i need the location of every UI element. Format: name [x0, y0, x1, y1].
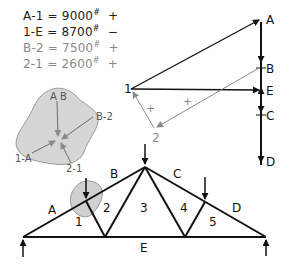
space-a: A: [48, 203, 57, 217]
label-21: 2-1: [66, 163, 82, 174]
label-e: E: [266, 84, 274, 98]
node-2-label: 2: [152, 131, 160, 145]
panel-4: 4: [180, 201, 188, 215]
space-e: E: [140, 241, 148, 255]
label-b: B: [266, 62, 274, 76]
panel-1: 1: [75, 215, 83, 229]
node-1-label: 1: [124, 82, 132, 96]
label-1a: 1-A: [15, 153, 32, 164]
panel-5: 5: [209, 215, 217, 229]
panel-2: 2: [103, 201, 111, 215]
diagram-canvas: + + A B E C D 1 2 A B B-2 1-A 2-1 A: [0, 0, 292, 267]
label-ab: A B: [50, 91, 67, 102]
label-a: A: [266, 13, 275, 27]
force-polygon: + + A B E C D 1 2: [124, 13, 275, 169]
plus-mark: +: [183, 95, 192, 108]
label-b2: B-2: [96, 111, 113, 122]
plus-mark: +: [146, 102, 155, 115]
joint-free-body: A B B-2 1-A 2-1: [15, 88, 113, 174]
panel-3: 3: [140, 201, 148, 215]
left-top-chord: [23, 167, 145, 237]
vector-b-2: [157, 68, 259, 127]
label-c: C: [266, 109, 274, 123]
space-c: C: [173, 167, 181, 181]
label-d: D: [266, 155, 275, 169]
space-d: D: [232, 201, 241, 215]
vector-1-e: [131, 89, 259, 90]
space-b: B: [110, 167, 118, 181]
